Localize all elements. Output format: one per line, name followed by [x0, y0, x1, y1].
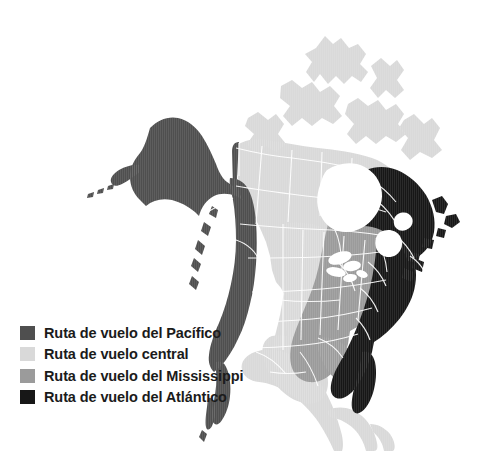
legend-item-atlantic[interactable]: Ruta de vuelo del Atlántico — [20, 387, 270, 409]
legend-item-central[interactable]: Ruta de vuelo central — [20, 344, 270, 366]
legend-item-mississippi[interactable]: Ruta de vuelo del Mississippi — [20, 365, 270, 387]
legend-swatch-pacific — [20, 326, 35, 340]
legend-swatch-atlantic — [20, 390, 35, 404]
legend-label-pacific: Ruta de vuelo del Pacífico — [44, 326, 221, 341]
legend-item-pacific[interactable]: Ruta de vuelo del Pacífico — [20, 322, 270, 344]
legend-label-mississippi: Ruta de vuelo del Mississippi — [44, 369, 243, 384]
flyway-map-figure: Ruta de vuelo del Pacífico Ruta de vuelo… — [0, 0, 489, 454]
legend-swatch-mississippi — [20, 369, 35, 383]
legend-label-central: Ruta de vuelo central — [44, 347, 189, 362]
legend-label-atlantic: Ruta de vuelo del Atlántico — [44, 390, 227, 405]
map-legend: Ruta de vuelo del Pacífico Ruta de vuelo… — [20, 322, 270, 408]
legend-swatch-central — [20, 347, 35, 361]
